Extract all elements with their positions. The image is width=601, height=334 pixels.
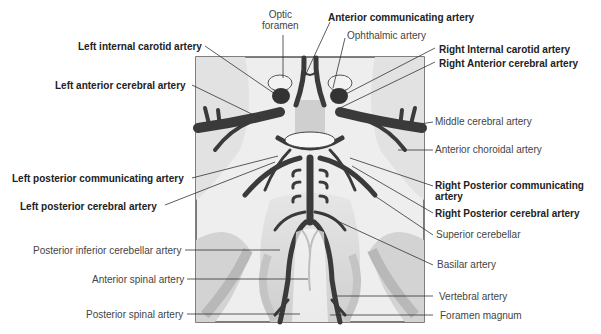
label-vertebral-artery: Vertebral artery xyxy=(439,291,507,302)
label-right-anterior-cerebral-artery: Right Anterior cerebral artery xyxy=(439,58,578,69)
label-posterior-inferior-cerebellar-artery: Posterior inferior cerebellar artery xyxy=(33,245,181,256)
label-optic-foramen-line2: foramen xyxy=(262,20,299,31)
label-right-posterior-communicating-artery: Right Posterior communicating artery xyxy=(435,180,584,202)
label-left-posterior-communicating-artery: Left posterior communicating artery xyxy=(12,173,184,184)
label-left-anterior-cerebral-artery: Left anterior cerebral artery xyxy=(55,80,186,91)
label-basilar-artery: Basilar artery xyxy=(437,259,496,270)
label-superior-cerebellar: Superior cerebellar xyxy=(436,229,521,240)
label-right-posterior-communicating-line1: Right Posterior communicating xyxy=(435,180,584,191)
label-optic-foramen-line1: Optic xyxy=(262,9,299,20)
label-ophthalmic-artery: Ophthalmic artery xyxy=(347,30,426,41)
label-middle-cerebral-artery: Middle cerebral artery xyxy=(435,116,532,127)
label-left-internal-carotid-artery: Left internal carotid artery xyxy=(78,41,202,52)
label-anterior-communicating-artery: Anterior communicating artery xyxy=(328,12,474,23)
label-right-posterior-cerebral-artery: Right Posterior cerebral artery xyxy=(435,208,580,219)
label-right-internal-carotid-artery: Right Internal carotid artery xyxy=(439,44,570,55)
label-right-posterior-communicating-line2: artery xyxy=(435,191,584,202)
label-foramen-magnum: Foramen magnum xyxy=(440,310,522,321)
label-posterior-spinal-artery: Posterior spinal artery xyxy=(86,309,183,320)
label-anterior-spinal-artery: Anterior spinal artery xyxy=(92,274,184,285)
label-left-posterior-cerebral-artery: Left posterior cerebral artery xyxy=(20,201,157,212)
label-anterior-choroidal-artery: Anterior choroidal artery xyxy=(435,144,542,155)
label-optic-foramen: Optic foramen xyxy=(262,9,299,31)
